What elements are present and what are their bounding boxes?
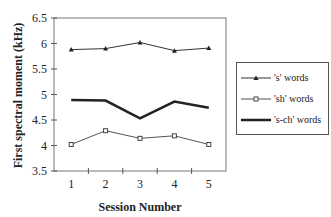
y-axis-label: First spectral moment (kHz) <box>11 16 26 176</box>
square-marker-icon <box>69 142 73 146</box>
thick-line-icon <box>241 113 271 127</box>
x-tick-label: 2 <box>103 177 109 191</box>
square-marker-icon <box>241 92 271 106</box>
series-line <box>71 100 209 118</box>
y-tick-label: 3.5 <box>32 164 47 178</box>
legend: 's' words 'sh' words 's-ch' words <box>236 62 329 135</box>
legend-label: 'sh' words <box>274 92 313 106</box>
triangle-marker-icon <box>138 40 143 45</box>
y-tick-label: 4.5 <box>32 113 47 127</box>
square-marker-icon <box>104 129 108 133</box>
square-marker-icon <box>172 134 176 138</box>
data-series <box>69 40 212 147</box>
x-tick-label: 3 <box>137 177 143 191</box>
y-tick-label: 5 <box>41 88 47 102</box>
square-marker-icon <box>138 136 142 140</box>
y-tick-label: 5.5 <box>32 62 47 76</box>
x-tick-label: 4 <box>171 177 177 191</box>
y-tick-label: 6 <box>41 37 47 51</box>
x-axis-label: Session Number <box>54 200 226 215</box>
y-axis: 3.544.555.566.5 <box>32 11 57 178</box>
square-marker-icon <box>207 142 211 146</box>
legend-label: 's-ch' words <box>274 113 321 127</box>
y-tick-label: 6.5 <box>32 11 47 25</box>
triangle-marker-icon <box>241 71 271 85</box>
x-tick-label: 1 <box>68 177 74 191</box>
legend-label: 's' words <box>274 71 308 85</box>
x-tick-label: 5 <box>206 177 212 191</box>
y-tick-label: 4 <box>41 139 47 153</box>
